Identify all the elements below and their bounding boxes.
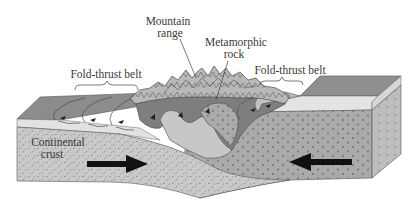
svg-text:range: range [157, 27, 183, 40]
label-mountain-line1: Mountain [146, 15, 191, 27]
svg-text:Mountain: Mountain [146, 15, 191, 27]
svg-text:crust: crust [41, 148, 64, 160]
svg-text:Continental: Continental [31, 136, 85, 148]
label-mountain-line2: range [157, 27, 183, 40]
label-fold-thrust-right: Fold-thrust belt [254, 64, 326, 76]
label-continental-line1: Continental [31, 136, 85, 148]
brace-left [75, 81, 138, 90]
label-metamorphic-line2: rock [224, 48, 245, 60]
label-continental-line2: crust [41, 148, 64, 160]
brace-right [260, 77, 303, 85]
label-fold-thrust-left: Fold-thrust belt [70, 68, 142, 80]
collision-block-diagram: Mountain range Metamorphic rock Fold-thr… [0, 0, 413, 211]
svg-text:rock: rock [224, 48, 245, 60]
